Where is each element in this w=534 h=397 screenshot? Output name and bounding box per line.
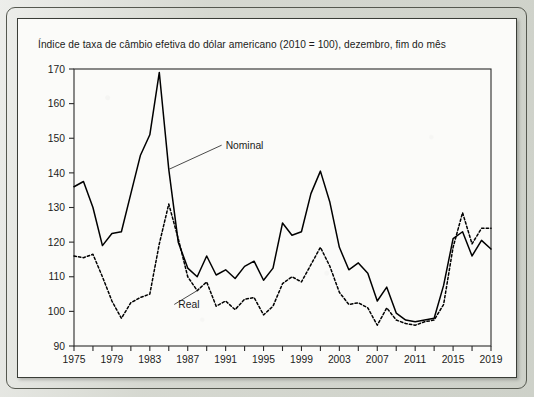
chart-plot-area: 90100110120130140150160170 1975197919831… xyxy=(18,19,518,379)
y-tick-label: 90 xyxy=(54,341,66,352)
x-tick-label: 1975 xyxy=(63,354,86,365)
y-tick-label: 130 xyxy=(48,202,65,213)
y-tick-label: 120 xyxy=(48,237,65,248)
x-tick-label: 2011 xyxy=(404,354,426,365)
x-axis-ticks: 1975197919831987199119951999200320072011… xyxy=(63,346,503,365)
y-tick-label: 160 xyxy=(48,98,65,109)
x-tick-label: 1991 xyxy=(214,354,237,365)
y-tick-label: 140 xyxy=(48,168,65,179)
line-chart-svg: 90100110120130140150160170 1975197919831… xyxy=(18,19,518,379)
y-axis-ticks: 90100110120130140150160170 xyxy=(48,64,74,352)
x-tick-label: 1979 xyxy=(100,354,123,365)
x-tick-label: 1999 xyxy=(290,354,313,365)
series-label-real: Real xyxy=(178,299,199,310)
y-tick-label: 170 xyxy=(48,64,65,75)
series-label-nominal: Nominal xyxy=(226,140,264,151)
axis-frame xyxy=(74,69,491,346)
series-line-real xyxy=(74,204,491,325)
scanned-page: Índice de taxa de câmbio efetiva do dóla… xyxy=(0,0,534,397)
y-tick-label: 100 xyxy=(48,306,65,317)
data-series-group xyxy=(74,72,491,325)
series-annotation-group: NominalReal xyxy=(169,140,264,310)
y-tick-label: 150 xyxy=(48,133,65,144)
x-tick-label: 2003 xyxy=(328,354,351,365)
x-tick-label: 1983 xyxy=(138,354,161,365)
x-tick-label: 1995 xyxy=(252,354,275,365)
x-tick-label: 2015 xyxy=(442,354,465,365)
x-tick-label: 2007 xyxy=(366,354,389,365)
figure-card: Índice de taxa de câmbio efetiva do dóla… xyxy=(17,18,517,378)
x-tick-label: 2019 xyxy=(480,354,503,365)
y-tick-label: 110 xyxy=(49,271,66,282)
x-tick-label: 1987 xyxy=(176,354,199,365)
